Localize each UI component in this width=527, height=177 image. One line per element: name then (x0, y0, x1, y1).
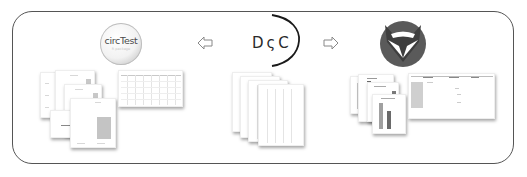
dcc-logo-arc-icon (268, 12, 304, 68)
plot-page (70, 98, 116, 148)
table-page (258, 84, 304, 146)
fox-logo (379, 20, 427, 68)
circtest-logo-subtitle: R package (100, 47, 142, 51)
arrow-left-outline-icon (197, 35, 213, 51)
bar-chart-page (372, 94, 406, 134)
web-app-window (408, 73, 495, 119)
circtest-logo: circTest R package (100, 23, 142, 65)
circtest-logo-title: circTest (100, 35, 142, 46)
arrow-right-outline-icon (323, 35, 339, 51)
table-spreadsheet (118, 70, 183, 107)
